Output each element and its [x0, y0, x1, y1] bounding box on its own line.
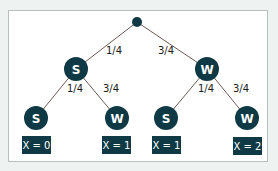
node-label: W — [240, 112, 253, 126]
outcome-box-ws: X = 1 — [152, 136, 181, 154]
outcome-label: X = 2 — [234, 141, 262, 152]
node-level2-ww: W — [235, 106, 259, 130]
node-label: S — [72, 63, 81, 77]
edge-prob-w-w: 3/4 — [233, 83, 249, 94]
outcome-label: X = 1 — [103, 140, 131, 151]
edge-prob-s-s: 1/4 — [67, 83, 83, 94]
outcome-box-sw: X = 1 — [102, 136, 131, 154]
node-level2-sw: W — [105, 106, 129, 130]
edge-prob-root-s: 1/4 — [106, 45, 122, 56]
node-label: S — [32, 112, 41, 126]
node-level1-s: S — [64, 57, 88, 81]
edge-prob-root-w: 3/4 — [158, 45, 174, 56]
node-label: S — [162, 112, 171, 126]
edge-prob-w-s: 1/4 — [198, 83, 214, 94]
node-level2-ss: S — [24, 106, 48, 130]
node-level1-w: W — [195, 57, 219, 81]
node-label: W — [110, 112, 123, 126]
outcome-label: X = 0 — [23, 140, 51, 151]
outcome-label: X = 1 — [153, 140, 181, 151]
edge-prob-s-w: 3/4 — [103, 83, 119, 94]
node-label: W — [200, 63, 213, 77]
root-node — [132, 17, 142, 27]
probability-tree: 1/4 3/4 1/4 3/4 1/4 3/4 S W S W S W X = … — [0, 0, 278, 171]
outcome-box-ww: X = 2 — [233, 137, 262, 155]
outcome-box-ss: X = 0 — [22, 136, 51, 154]
node-level2-ws: S — [154, 106, 178, 130]
